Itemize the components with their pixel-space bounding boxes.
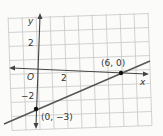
tick-x-2: 2 — [61, 73, 67, 83]
point-0-neg3 — [34, 107, 38, 111]
point-label-6-0: (6, 0) — [101, 58, 125, 68]
tick-y-neg2: −2 — [21, 91, 34, 101]
point-label-0-neg3: (0, −3) — [41, 112, 73, 122]
y-axis-label: y — [27, 16, 34, 26]
origin-label: O — [27, 72, 34, 82]
point-6-0 — [119, 71, 123, 75]
tick-y-2: 2 — [28, 38, 34, 48]
coordinate-graph: y x O 2 2 −2 (6, 0) (0, −3) — [0, 0, 163, 136]
x-axis-label: x — [139, 77, 146, 87]
